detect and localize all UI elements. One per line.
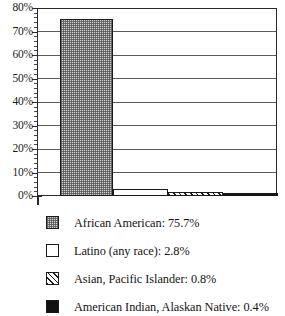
y-tick-label-70: 70% bbox=[0, 26, 33, 38]
x-axis-stub bbox=[37, 196, 39, 205]
bar-american-indian-alaskan-native bbox=[223, 193, 278, 196]
white-swatch-icon bbox=[46, 244, 59, 257]
legend-item-american-indian-alaskan-native: American Indian, Alaskan Native: 0.4% bbox=[0, 294, 285, 316]
y-axis-labels: 80% 70% 60% 50% 40% 30% 20% 10% 0% bbox=[0, 8, 33, 196]
y-tick-label-50: 50% bbox=[0, 73, 33, 85]
solid-black-swatch-icon bbox=[46, 300, 59, 313]
diagonal-hatch-swatch-icon bbox=[46, 272, 59, 285]
legend-label-latino: Latino (any race): 2.8% bbox=[74, 244, 190, 258]
legend-label-american-indian-alaskan-native: American Indian, Alaskan Native: 0.4% bbox=[74, 300, 269, 314]
y-tick-label-0: 0% bbox=[0, 190, 33, 202]
bar-african-american bbox=[60, 19, 113, 195]
legend-item-african-american: African American: 75.7% bbox=[0, 210, 285, 235]
bar-chart: 80% 70% 60% 50% 40% 30% 20% 10% 0% bbox=[0, 0, 285, 316]
bars-layer bbox=[39, 9, 276, 196]
y-tick-label-80: 80% bbox=[0, 2, 33, 14]
legend-item-asian-pacific-islander: Asian, Pacific Islander: 0.8% bbox=[0, 266, 285, 291]
bar-latino bbox=[113, 189, 168, 196]
legend-item-latino: Latino (any race): 2.8% bbox=[0, 238, 285, 263]
y-tick-label-40: 40% bbox=[0, 96, 33, 108]
y-tick-label-20: 20% bbox=[0, 143, 33, 155]
dotted-gray-swatch-icon bbox=[46, 216, 59, 229]
legend-label-african-american: African American: 75.7% bbox=[74, 216, 200, 230]
legend: African American: 75.7% Latino (any race… bbox=[0, 206, 285, 316]
bar-asian-pacific-islander bbox=[168, 192, 223, 196]
plot-area: 80% 70% 60% 50% 40% 30% 20% 10% 0% bbox=[0, 0, 285, 205]
y-tick-label-60: 60% bbox=[0, 49, 33, 61]
legend-label-asian-pacific-islander: Asian, Pacific Islander: 0.8% bbox=[74, 272, 216, 286]
y-tick-label-30: 30% bbox=[0, 120, 33, 132]
y-tick-label-10: 10% bbox=[0, 167, 33, 179]
